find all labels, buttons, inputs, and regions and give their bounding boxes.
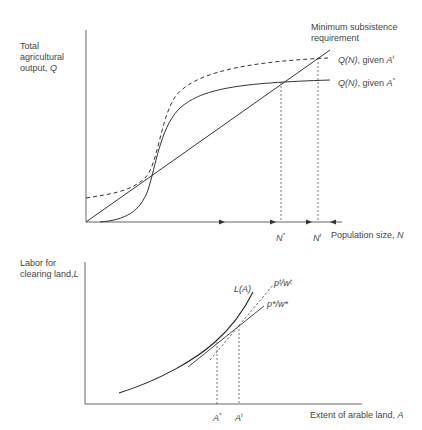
tick-a-t: At [235,410,243,424]
bottom-x-axis-label: Extent of arable land, A [310,410,404,421]
tangent-label-pt: pᵗ/wᵗ [274,278,292,289]
label-line: clearing land,L [20,269,79,280]
label-text: Extent of arable land, [310,410,398,420]
la-curve-label: L(A) [234,284,251,295]
label-text: , given [358,55,387,65]
label-line: Labor for [20,258,79,269]
label-var: Q [50,63,57,73]
label-var: A [398,410,404,420]
tangent-pt [210,285,273,360]
tick-sup: t [320,232,322,238]
tick-n-star: N* [276,230,285,244]
q-curve-At [86,58,328,198]
tick-n-t: Nt [313,230,321,244]
tangent-pstar [188,306,264,367]
curve-label-Astar: Q(N), given A* [338,75,395,89]
label-var: N [397,230,404,240]
label-sup: * [393,77,395,83]
tangent-label-pstar: p*/w* [267,299,288,310]
label-prefix: Q(N) [338,78,358,88]
label-line: output, Q [20,63,64,74]
label-text: Population size, [331,230,397,240]
tick-a-star: A* [213,410,221,424]
label-var: L [74,269,79,279]
label-line: Minimum subsistence [311,22,398,33]
arrow-left-icon [330,220,336,225]
label-text: output, [20,63,50,73]
label-line: Total [20,41,64,52]
la-curve [119,292,253,393]
q-curve-Astar [100,80,330,222]
subsistence-line-label: Minimum subsistence requirement [311,22,398,44]
top-x-axis-label: Population size, N [331,230,404,241]
tick-sup: t [241,412,243,418]
arrow-right-icon [270,220,276,225]
label-text: , given [358,78,387,88]
top-chart [86,30,342,225]
arrow-right-icon [219,220,225,225]
label-line: requirement [311,33,398,44]
label-prefix: Q(N) [338,55,358,65]
curve-label-At: Q(N), given At [338,52,394,66]
tick-sup: * [219,412,221,418]
bottom-y-axis-label: Labor for clearing land,L [20,258,79,280]
label-text: clearing land, [20,269,74,279]
arrow-right-icon [306,220,312,225]
label-sup: t [393,54,395,60]
top-y-axis-label: Total agricultural output, Q [20,41,64,74]
label-line: agricultural [20,52,64,63]
tick-sup: * [283,232,285,238]
bottom-chart [85,262,362,404]
